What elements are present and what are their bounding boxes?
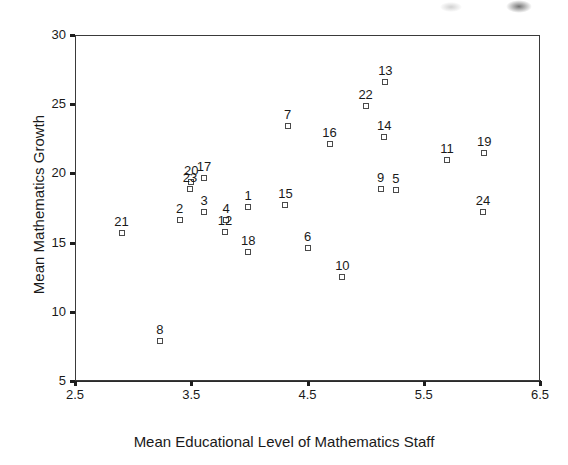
- y-tick-label: 5: [36, 374, 66, 387]
- data-point-label: 24: [471, 194, 495, 207]
- data-point-label: 3: [192, 194, 216, 207]
- plot-area: [75, 35, 540, 381]
- data-point-marker: [393, 187, 399, 193]
- data-point-marker: [282, 202, 288, 208]
- x-axis-title: Mean Educational Level of Mathematics St…: [0, 433, 568, 450]
- data-point-marker: [339, 274, 345, 280]
- data-point-marker: [381, 134, 387, 140]
- y-tick-mark: [70, 34, 75, 37]
- y-tick-label: 30: [36, 28, 66, 41]
- data-point-marker: [327, 141, 333, 147]
- x-tick-mark: [307, 381, 310, 386]
- data-point-label: 19: [472, 135, 496, 148]
- data-point-marker: [245, 249, 251, 255]
- y-tick-mark: [70, 103, 75, 106]
- data-point-label: 7: [276, 108, 300, 121]
- x-tick-label: 3.5: [171, 388, 211, 401]
- x-tick-label: 6.5: [520, 388, 560, 401]
- scan-artifact-icon: [506, 0, 532, 13]
- data-point-label: 23: [178, 171, 202, 184]
- data-point-label: 15: [273, 187, 297, 200]
- data-point-marker: [481, 150, 487, 156]
- data-point-label: 18: [236, 234, 260, 247]
- x-tick-mark: [190, 381, 193, 386]
- y-tick-mark: [70, 311, 75, 314]
- data-point-label: 16: [318, 126, 342, 139]
- data-point-label: 22: [354, 88, 378, 101]
- data-point-marker: [201, 209, 207, 215]
- data-point-marker: [177, 217, 183, 223]
- data-point-marker: [378, 186, 384, 192]
- data-point-label: 8: [148, 323, 172, 336]
- scan-artifact-icon: [440, 2, 462, 12]
- data-point-label: 12: [213, 214, 237, 227]
- data-point-label: 13: [373, 64, 397, 77]
- x-tick-label: 5.5: [404, 388, 444, 401]
- y-axis-title: Mean Mathematics Growth: [30, 75, 47, 335]
- data-point-marker: [245, 204, 251, 210]
- data-point-marker: [222, 229, 228, 235]
- data-point-label: 14: [372, 119, 396, 132]
- data-point-marker: [187, 186, 193, 192]
- data-point-marker: [119, 230, 125, 236]
- data-point-marker: [444, 157, 450, 163]
- data-point-label: 9: [369, 171, 393, 184]
- x-tick-mark: [74, 381, 77, 386]
- data-point-label: 21: [110, 215, 134, 228]
- y-tick-mark: [70, 242, 75, 245]
- data-point-label: 2: [168, 202, 192, 215]
- data-point-marker: [382, 79, 388, 85]
- data-point-label: 6: [296, 230, 320, 243]
- scatter-plot-figure: 51015202530 2.53.54.55.56.5 123456789101…: [0, 0, 568, 465]
- data-point-label: 11: [435, 142, 459, 155]
- y-tick-mark: [70, 172, 75, 175]
- data-point-marker: [305, 245, 311, 251]
- data-point-label: 10: [330, 259, 354, 272]
- data-point-marker: [363, 103, 369, 109]
- data-point-marker: [157, 338, 163, 344]
- data-point-label: 1: [236, 189, 260, 202]
- x-tick-mark: [423, 381, 426, 386]
- data-point-marker: [480, 209, 486, 215]
- x-tick-mark: [539, 381, 542, 386]
- x-tick-label: 2.5: [55, 388, 95, 401]
- x-tick-label: 4.5: [288, 388, 328, 401]
- data-point-marker: [285, 123, 291, 129]
